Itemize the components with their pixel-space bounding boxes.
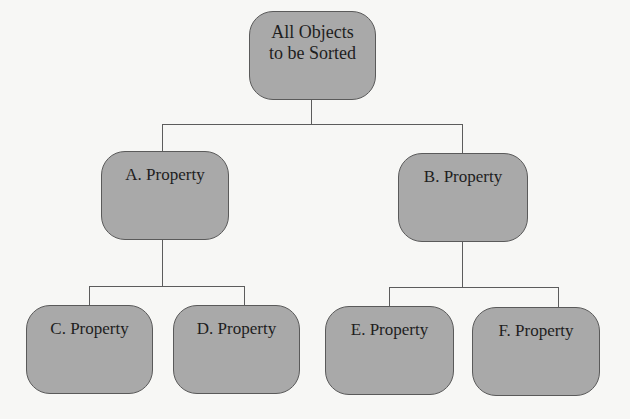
node-f-property: F. Property: [472, 307, 600, 396]
connector-b-bar: [389, 287, 558, 288]
connector-root-bar: [162, 124, 462, 125]
node-b-property: B. Property: [398, 153, 528, 242]
node-f-label: F. Property: [473, 308, 599, 341]
connector-to-a: [162, 124, 163, 151]
node-e-property: E. Property: [325, 306, 454, 395]
connector-to-e: [389, 287, 390, 306]
node-a-label: A. Property: [102, 152, 228, 185]
sorting-tree-diagram: All Objects to be Sorted A. Property B. …: [0, 0, 630, 419]
connector-a-bar: [89, 286, 244, 287]
connector-to-b: [462, 124, 463, 153]
node-c-label: C. Property: [27, 306, 152, 339]
node-e-label: E. Property: [326, 307, 453, 340]
node-d-property: D. Property: [173, 305, 300, 394]
connector-a-stem: [162, 240, 163, 286]
node-root: All Objects to be Sorted: [249, 11, 376, 100]
node-c-property: C. Property: [26, 305, 153, 394]
node-a-property: A. Property: [101, 151, 229, 240]
node-root-label: All Objects to be Sorted: [250, 12, 375, 64]
connector-to-f: [558, 287, 559, 307]
connector-root-stem: [311, 100, 312, 124]
connector-b-stem: [462, 242, 463, 287]
node-b-label: B. Property: [399, 154, 527, 187]
node-d-label: D. Property: [174, 306, 299, 339]
connector-to-d: [244, 286, 245, 305]
connector-to-c: [89, 286, 90, 305]
